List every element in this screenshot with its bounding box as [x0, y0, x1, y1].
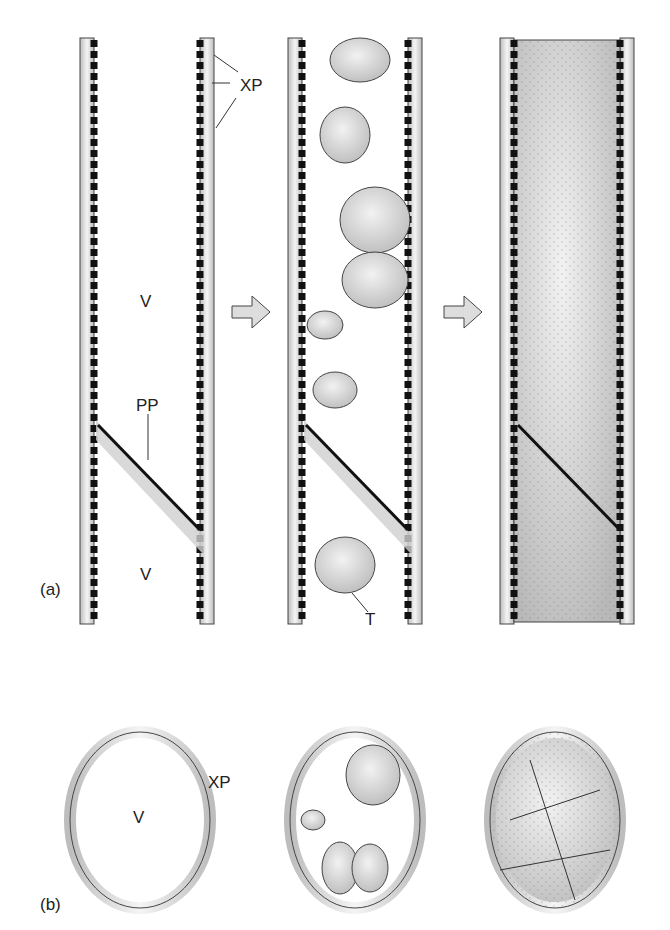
- label-xp-cross: XP: [208, 773, 231, 793]
- panel-a-label: (a): [40, 580, 61, 600]
- label-vessel-upper: V: [140, 292, 151, 312]
- arrow-icon-2: [444, 296, 482, 328]
- label-xp: XP: [240, 76, 263, 96]
- label-tylose: T: [365, 610, 375, 630]
- vessel-cross-section-3: [490, 732, 620, 908]
- label-vessel-cross: V: [133, 808, 144, 828]
- vessel-longitudinal-1: [80, 38, 214, 624]
- vessel-longitudinal-2: [288, 38, 422, 624]
- label-pp: PP: [136, 396, 159, 416]
- tylose-diagram: [0, 0, 670, 930]
- panel-b-label: (b): [40, 895, 61, 915]
- vessel-cross-section-2: [290, 732, 420, 908]
- arrow-icon-1: [232, 296, 270, 328]
- label-vessel-lower: V: [140, 565, 151, 585]
- vessel-longitudinal-3: [500, 38, 634, 624]
